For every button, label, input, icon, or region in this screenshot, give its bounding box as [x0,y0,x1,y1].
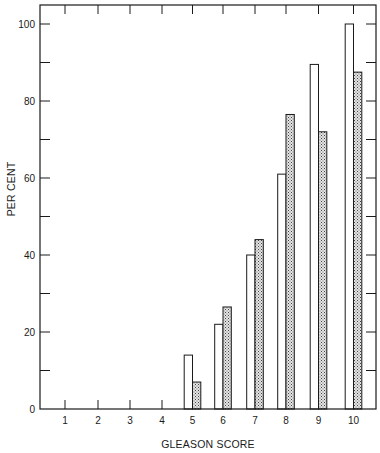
y-tick-label: 80 [24,96,36,107]
gleason-score-bar-chart: 020406080100 12345678910 GLEASON SCORE P… [0,0,380,453]
x-tick-label: 7 [252,415,258,426]
bar-stippled-score-8 [286,114,294,409]
x-tick-label: 9 [316,415,322,426]
bar-open-score-8 [278,174,286,409]
bar-open-score-5 [184,355,192,409]
y-tick-label: 100 [18,19,35,30]
x-axis-title: GLEASON SCORE [161,438,255,450]
x-tick-label: 8 [283,415,289,426]
bars [184,24,362,409]
y-tick-label: 60 [24,173,36,184]
bar-open-score-6 [215,324,223,409]
x-tick-label: 2 [95,415,101,426]
bar-stippled-score-6 [223,307,231,409]
y-axis-title: PER CENT [5,161,17,216]
x-tick-label: 3 [127,415,133,426]
bar-stippled-score-10 [354,72,362,409]
bar-stippled-score-5 [193,382,201,409]
x-tick-label: 6 [220,415,226,426]
y-tick-label: 40 [24,250,36,261]
bar-stippled-score-7 [255,240,263,409]
bar-open-score-9 [310,64,318,409]
y-tick-label: 0 [29,404,35,415]
bar-stippled-score-9 [319,132,327,409]
x-tick-label: 4 [159,415,165,426]
x-tick-label: 1 [62,415,68,426]
bar-open-score-7 [247,255,255,409]
x-tick-label: 10 [348,415,360,426]
y-tick-label: 20 [24,327,36,338]
bar-open-score-10 [345,24,353,409]
x-tick-label: 5 [190,415,196,426]
x-axis-tick-labels: 12345678910 [62,415,359,426]
y-axis-tick-labels: 020406080100 [18,19,35,415]
